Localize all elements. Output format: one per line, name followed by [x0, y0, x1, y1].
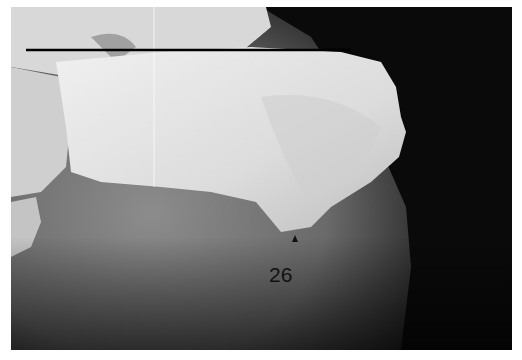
- figure-label: 26: [269, 263, 292, 287]
- xray-illustration: [11, 7, 512, 350]
- xray-image: [11, 7, 512, 350]
- arrowhead-marker: [292, 235, 298, 242]
